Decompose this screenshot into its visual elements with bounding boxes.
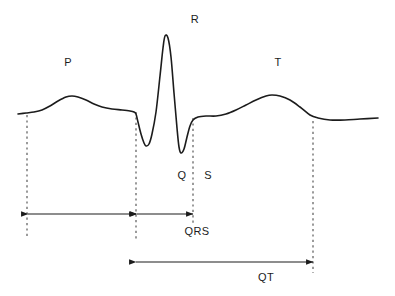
ecg-diagram: P R Q S T QRS QT (0, 0, 395, 296)
ecg-trace-group (18, 35, 378, 153)
s-wave-label: S (204, 169, 212, 181)
q-wave-label: Q (178, 169, 187, 181)
r-wave-label: R (191, 13, 199, 25)
p-wave-label: P (64, 56, 72, 68)
ecg-canvas (0, 0, 395, 296)
qrs-interval-label: QRS (184, 225, 209, 237)
qt-interval-label: QT (258, 271, 274, 283)
measurement-arrows-group (28, 214, 313, 262)
t-wave-label: T (274, 56, 281, 68)
guide-lines-group (27, 112, 313, 273)
ecg-trace-path (18, 35, 378, 153)
